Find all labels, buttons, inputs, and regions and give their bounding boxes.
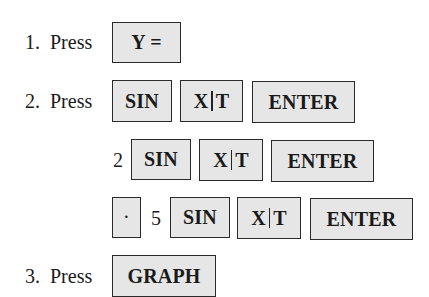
sin-key[interactable]: SIN	[170, 197, 230, 238]
key-label: Y =	[131, 31, 162, 54]
xt-key[interactable]: XT	[199, 139, 263, 181]
key-label: ENTER	[269, 91, 339, 114]
step-verb: Press	[50, 265, 92, 287]
key-divider	[211, 91, 213, 111]
step-1-label: 1. Press	[25, 32, 92, 52]
key-divider	[269, 208, 271, 228]
step-verb: Press	[50, 31, 92, 53]
graph-key[interactable]: GRAPH	[112, 255, 216, 297]
decimal-point-key[interactable]: ·	[112, 197, 141, 238]
step-2-label: 2. Press	[25, 91, 92, 111]
key-label: SIN	[183, 206, 217, 229]
key-label: ENTER	[288, 150, 358, 173]
xt-key[interactable]: XT	[237, 197, 301, 239]
sin-key[interactable]: SIN	[131, 139, 191, 180]
xt-key[interactable]: XT	[180, 80, 243, 122]
key-label: GRAPH	[127, 265, 200, 288]
key-label-x: X	[194, 90, 209, 113]
key-label: ·	[123, 206, 130, 229]
sin-key[interactable]: SIN	[112, 80, 172, 122]
key-label: SIN	[144, 148, 178, 171]
step-number: 2.	[25, 90, 40, 112]
key-label-t: T	[235, 149, 249, 172]
key-label-t: T	[216, 90, 230, 113]
y-equals-key[interactable]: Y =	[112, 22, 181, 63]
key-label: ENTER	[327, 208, 397, 231]
digit-5: 5	[151, 208, 161, 228]
key-label-x: X	[251, 207, 266, 230]
coefficient-2: 2	[113, 150, 123, 170]
key-label: SIN	[125, 90, 159, 113]
key-label-t: T	[273, 207, 287, 230]
step-3-label: 3. Press	[25, 266, 92, 286]
step-number: 1.	[25, 31, 40, 53]
key-divider	[231, 150, 233, 170]
step-verb: Press	[50, 90, 92, 112]
enter-key[interactable]: ENTER	[310, 198, 413, 240]
enter-key[interactable]: ENTER	[252, 81, 355, 123]
key-label-x: X	[213, 149, 228, 172]
step-number: 3.	[25, 265, 40, 287]
enter-key[interactable]: ENTER	[271, 140, 374, 182]
